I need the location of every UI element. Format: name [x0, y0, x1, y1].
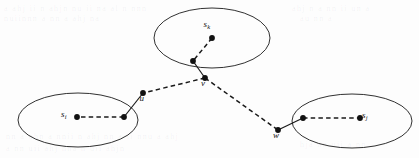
node-label-v: v	[201, 79, 205, 88]
edge-v-w	[205, 78, 278, 130]
node-label-sj: sj	[362, 111, 368, 120]
scan-bleed-text-2: ahj n a nn ii un a	[292, 4, 371, 13]
node-label-sk: sk	[204, 20, 211, 29]
edge-v-u	[143, 78, 205, 93]
scan-bleed-text-6: hja nn uii a nn	[300, 140, 367, 149]
scan-bleed-text-3: au nn a	[300, 14, 333, 23]
scan-bleed-text-4: nn a uhn a nnii n ahj nn a ii nnu a ahj	[6, 132, 179, 141]
node-label-u: u	[140, 94, 145, 103]
scan-bleed-text-5: a nn uii ahj nna n uii ahjn	[6, 144, 125, 153]
edge-top-boundary-v	[193, 61, 205, 78]
clusters-layer	[18, 8, 412, 148]
node-lb	[121, 114, 127, 120]
node-sk	[209, 35, 215, 41]
scan-bleed-text-0: a ahj ii n ahjn nu ii na al n nnn	[4, 4, 148, 13]
node-tb	[190, 58, 196, 64]
scan-bleed-text-1: nuiinnn a nn a ahj na	[4, 14, 100, 23]
node-si	[74, 114, 80, 120]
edges-layer	[77, 38, 360, 130]
edge-sk-top-boundary	[193, 38, 212, 61]
edge-w-right-boundary	[278, 118, 303, 130]
node-label-w: w	[273, 131, 279, 140]
node-label-si: si	[61, 110, 67, 119]
node-rb	[300, 115, 306, 121]
figure-container: skvusiwsj a ahj ii n ahjn nu ii na al n …	[0, 0, 419, 158]
